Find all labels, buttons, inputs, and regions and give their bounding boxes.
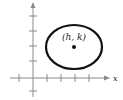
x-axis-label: x xyxy=(113,74,118,83)
center-point xyxy=(72,45,76,49)
coordinate-plane: (h, k) x xyxy=(0,0,123,100)
x-axis-arrow-icon xyxy=(104,76,110,81)
center-label: (h, k) xyxy=(62,32,86,42)
y-axis-arrow-icon xyxy=(31,2,36,8)
